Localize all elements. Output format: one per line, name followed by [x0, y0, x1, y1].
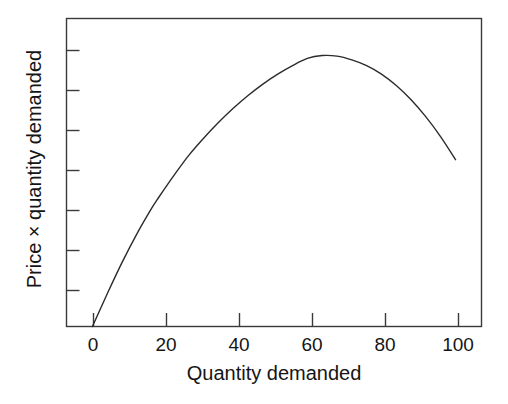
plot-area: [0, 0, 508, 404]
x-tick-label-40: 40: [228, 334, 249, 356]
x-tick-label-80: 80: [374, 334, 395, 356]
x-axis-ticks: [94, 313, 459, 327]
revenue-curve: [92, 55, 455, 326]
x-tick-label-0: 0: [88, 334, 99, 356]
plot-frame: [67, 19, 482, 327]
y-axis-ticks: [67, 51, 80, 291]
x-tick-label-20: 20: [155, 334, 176, 356]
x-tick-label-100: 100: [442, 334, 474, 356]
chart-figure: Price × quantity demanded 0 20 40: [0, 0, 508, 404]
x-axis-title: Quantity demanded: [66, 362, 482, 385]
x-tick-label-60: 60: [301, 334, 322, 356]
